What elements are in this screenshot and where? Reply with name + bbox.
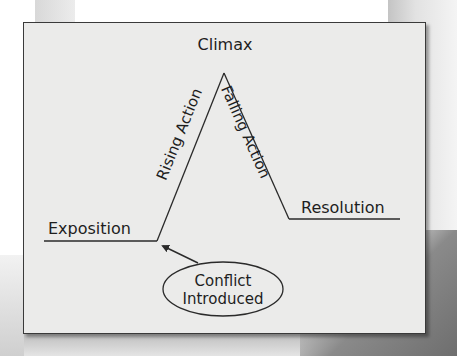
falling-action-label: Falling Action — [217, 83, 274, 181]
plot-structure-diagram: Climax Rising Action Falling Action Expo… — [0, 0, 457, 356]
conflict-label-line2: Introduced — [183, 290, 264, 308]
rising-action-label: Rising Action — [153, 86, 206, 183]
conflict-label-line1: Conflict — [195, 272, 252, 290]
exposition-label: Exposition — [48, 219, 131, 238]
conflict-arrow — [163, 246, 198, 263]
resolution-label: Resolution — [301, 198, 385, 217]
climax-label: Climax — [198, 35, 253, 54]
